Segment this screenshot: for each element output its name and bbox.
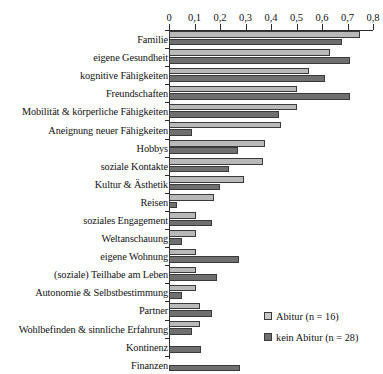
x-axis-tick-mark [220,24,221,30]
bar-group [169,102,383,120]
x-axis-tick-label: 0,1 [188,11,201,24]
x-axis-tick-label: 0,6 [315,11,328,24]
bar-group [169,247,383,265]
chart-row: soziales Engagement [0,211,383,229]
x-axis-tick-label: 0,7 [341,11,354,24]
bar-abitur [169,104,297,111]
chart-row: Freundschaften [0,84,383,102]
bar-abitur [169,158,263,165]
category-label: Kontinenz [126,341,168,352]
bar-group [169,265,383,283]
bar-kein-abitur [169,184,220,191]
bar-kein-abitur [169,274,217,281]
bar-abitur [169,68,309,75]
chart-row: soziale Kontakte [0,157,383,175]
bar-abitur [169,303,200,310]
x-axis-tick-mark [373,24,374,30]
category-label: Wohlbefinden & sinnliche Erfahrung [19,323,168,334]
bar-kein-abitur [169,129,192,136]
bar-group [169,356,383,374]
category-label: eigene Wohnung [100,251,168,262]
bar-abitur [169,86,297,93]
bar-kein-abitur [169,57,350,64]
bar-kein-abitur [169,202,177,209]
bar-kein-abitur [169,256,239,263]
bar-abitur [169,194,214,201]
bar-abitur [169,285,196,292]
chart-row: Finanzen [0,356,383,374]
bar-kein-abitur [169,147,238,154]
chart-row: Aneignung neuer Fähigkeiten [0,120,383,138]
legend-label: Abitur (n = 16) [276,311,339,322]
bar-kein-abitur [169,346,201,353]
category-label: (soziale) Teilhabe am Leben [54,269,168,280]
bar-kein-abitur [169,220,212,227]
bar-group [169,30,383,48]
x-axis-tick-label: 0,4 [264,11,277,24]
chart-row: Mobilität & körperliche Fähigkeiten [0,102,383,120]
bar-group [169,48,383,66]
bar-kein-abitur [169,93,350,100]
bar-group [169,84,383,102]
x-axis-tick-label: 0,5 [290,11,303,24]
category-label: soziales Engagement [83,214,168,225]
chart-row: kognitive Fähigkeiten [0,66,383,84]
x-axis-tick-labels: 00,10,20,30,40,50,60,70,8 [169,11,373,24]
category-label: Partner [139,305,168,316]
chart-row: Hobbys [0,139,383,157]
legend-swatch-icon [264,333,272,341]
x-axis-tick-mark [195,24,196,30]
chart-row: Familie [0,30,383,48]
bar-kein-abitur [169,310,212,317]
chart-legend: Abitur (n = 16)kein Abitur (n = 28) [264,310,382,352]
bar-kein-abitur [169,39,342,46]
bar-group [169,139,383,157]
bar-kein-abitur [169,292,182,299]
category-label: Mobilität & körperliche Fähigkeiten [22,106,168,117]
x-axis-tick-mark [169,24,170,30]
bar-abitur [169,31,360,38]
category-label: Familie [137,34,168,45]
chart-row: Reisen [0,193,383,211]
category-label: Aneignung neuer Fähigkeiten [48,124,168,135]
bar-kein-abitur [169,75,325,82]
category-label: eigene Gesundheit [93,52,168,63]
bar-abitur [169,249,196,256]
category-label: kognitive Fähigkeiten [80,70,168,81]
x-axis-tick-label: 0,2 [213,11,226,24]
bar-group [169,157,383,175]
chart-row: eigene Gesundheit [0,48,383,66]
bar-abitur [169,122,281,129]
bar-group [169,120,383,138]
x-axis-tick-label: 0 [166,11,171,24]
chart-row: eigene Wohnung [0,247,383,265]
bar-group [169,229,383,247]
bar-group [169,193,383,211]
x-axis-tick-mark [348,24,349,30]
x-axis-tick-mark [271,24,272,30]
bar-abitur [169,140,265,147]
x-axis-tick-mark [322,24,323,30]
bar-abitur [169,267,196,274]
legend-label: kein Abitur (n = 28) [276,332,358,343]
legend-swatch-icon [264,312,272,320]
bar-kein-abitur [169,166,229,173]
x-axis-tick-label: 0,3 [239,11,252,24]
category-label: Hobbys [137,142,168,153]
category-label: Freundschaften [106,88,168,99]
category-label: Reisen [141,196,168,207]
bar-kein-abitur [169,328,192,335]
category-label: soziale Kontakte [101,160,168,171]
bar-kein-abitur [169,238,182,245]
x-axis-tick-mark [297,24,298,30]
category-label: Finanzen [131,359,168,370]
chart-row: (soziale) Teilhabe am Leben [0,265,383,283]
category-label: Autonomie & Selbstbestimmung [35,287,168,298]
bar-group [169,66,383,84]
x-axis-tick-label: 0,8 [366,11,379,24]
bar-group [169,175,383,193]
bar-group [169,283,383,301]
bar-kein-abitur [169,111,279,118]
y-axis-tick-mark [165,356,169,357]
